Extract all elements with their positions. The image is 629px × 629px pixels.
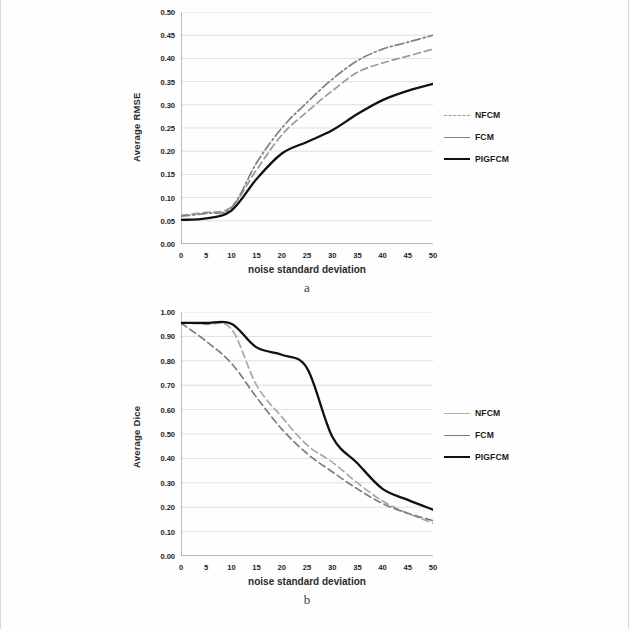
y-tick-label: 0.15 xyxy=(145,170,175,179)
x-axis-label-a: noise standard deviation xyxy=(181,264,433,275)
legend-label: PIGFCM xyxy=(475,452,509,462)
y-tick-label: 0.60 xyxy=(145,405,175,414)
x-tick-label: 0 xyxy=(171,563,191,572)
legend-item: PIGFCM xyxy=(444,446,509,468)
chart-panel-a: Average RMSE noise standard deviation NF… xyxy=(1,0,629,300)
y-tick-label: 0.30 xyxy=(145,100,175,109)
series-line-nfcm xyxy=(181,323,433,523)
x-tick-label: 40 xyxy=(373,251,393,260)
y-tick-label: 0.10 xyxy=(145,193,175,202)
x-tick-label: 15 xyxy=(247,563,267,572)
y-axis-label-a: Average RMSE xyxy=(131,92,142,162)
y-tick-label: 0.45 xyxy=(145,31,175,40)
legend-label: NFCM xyxy=(475,110,500,120)
x-tick-label: 40 xyxy=(373,563,393,572)
y-tick-label: 0.70 xyxy=(145,381,175,390)
series-line-pigfcm xyxy=(181,84,433,220)
plot-svg-b xyxy=(181,312,433,556)
plot-area-a xyxy=(181,12,433,244)
legend-swatch-fcm xyxy=(444,137,470,138)
y-tick-label: 0.00 xyxy=(145,552,175,561)
legend-label: FCM xyxy=(475,132,494,142)
legend-item: NFCM xyxy=(444,402,509,424)
legend-swatch-fcm xyxy=(444,435,470,436)
y-tick-label: 0.40 xyxy=(145,54,175,63)
series-line-fcm xyxy=(181,35,433,216)
panel-letter-b: b xyxy=(287,592,327,608)
legend-item: FCM xyxy=(444,424,509,446)
x-tick-label: 50 xyxy=(423,563,443,572)
x-tick-label: 35 xyxy=(347,563,367,572)
panel-letter-a: a xyxy=(287,280,327,296)
y-tick-label: 0.35 xyxy=(145,77,175,86)
y-tick-label: 0.50 xyxy=(145,430,175,439)
legend-b: NFCMFCMPIGFCM xyxy=(444,402,509,468)
y-tick-label: 0.00 xyxy=(145,240,175,249)
legend-swatch-nfcm xyxy=(444,413,470,414)
y-tick-label: 0.40 xyxy=(145,454,175,463)
x-tick-label: 5 xyxy=(196,563,216,572)
chart-panel-b: Average Dice noise standard deviation NF… xyxy=(1,296,629,596)
legend-item: FCM xyxy=(444,126,509,148)
x-tick-label: 10 xyxy=(221,251,241,260)
x-tick-label: 15 xyxy=(247,251,267,260)
series-line-nfcm xyxy=(181,49,433,215)
x-tick-label: 20 xyxy=(272,563,292,572)
x-tick-label: 10 xyxy=(221,563,241,572)
y-tick-label: 0.90 xyxy=(145,332,175,341)
y-tick-label: 0.50 xyxy=(145,8,175,17)
legend-a: NFCMFCMPIGFCM xyxy=(444,104,509,170)
legend-item: PIGFCM xyxy=(444,148,509,170)
x-tick-label: 25 xyxy=(297,563,317,572)
plot-svg-a xyxy=(181,12,433,244)
y-tick-label: 0.20 xyxy=(145,503,175,512)
figure-page: Average RMSE noise standard deviation NF… xyxy=(0,0,629,629)
series-line-pigfcm xyxy=(181,322,433,510)
x-tick-label: 20 xyxy=(272,251,292,260)
legend-item: NFCM xyxy=(444,104,509,126)
legend-swatch-pigfcm xyxy=(444,158,470,160)
y-tick-label: 0.25 xyxy=(145,124,175,133)
x-tick-label: 25 xyxy=(297,251,317,260)
y-tick-label: 0.05 xyxy=(145,216,175,225)
series-line-fcm xyxy=(181,323,433,521)
y-tick-label: 0.20 xyxy=(145,147,175,156)
y-tick-label: 0.30 xyxy=(145,478,175,487)
x-tick-label: 50 xyxy=(423,251,443,260)
legend-swatch-nfcm xyxy=(444,115,470,116)
x-tick-label: 30 xyxy=(322,251,342,260)
x-tick-label: 5 xyxy=(196,251,216,260)
y-tick-label: 0.80 xyxy=(145,356,175,365)
x-tick-label: 0 xyxy=(171,251,191,260)
x-tick-label: 45 xyxy=(398,563,418,572)
x-tick-label: 30 xyxy=(322,563,342,572)
plot-area-b xyxy=(181,312,433,556)
legend-label: FCM xyxy=(475,430,494,440)
legend-swatch-pigfcm xyxy=(444,456,470,458)
y-axis-label-b: Average Dice xyxy=(131,406,142,468)
y-tick-label: 0.10 xyxy=(145,527,175,536)
legend-label: PIGFCM xyxy=(475,154,509,164)
x-tick-label: 45 xyxy=(398,251,418,260)
y-tick-label: 1.00 xyxy=(145,308,175,317)
x-tick-label: 35 xyxy=(347,251,367,260)
x-axis-label-b: noise standard deviation xyxy=(181,576,433,587)
legend-label: NFCM xyxy=(475,408,500,418)
